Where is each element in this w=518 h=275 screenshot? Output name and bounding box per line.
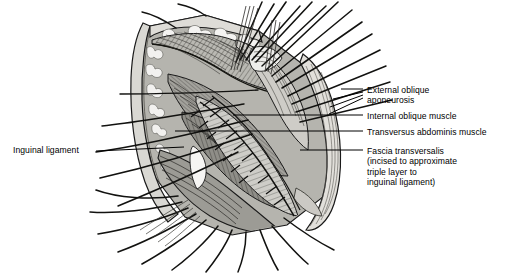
label-transversus-abdominis-muscle: Transversus abdominis muscle xyxy=(367,127,487,137)
label-inguinal-ligament: Inguinal ligament xyxy=(13,145,79,155)
label-external-oblique-aponeurosis: External oblique aponeurosis xyxy=(367,85,429,106)
label-internal-oblique-muscle: Internal oblique muscle xyxy=(367,111,457,121)
anatomical-illustration xyxy=(0,0,518,275)
figure-root: External oblique aponeurosis Internal ob… xyxy=(0,0,518,275)
label-fascia-transversalis: Fascia transversalis (incised to approxi… xyxy=(367,146,457,188)
